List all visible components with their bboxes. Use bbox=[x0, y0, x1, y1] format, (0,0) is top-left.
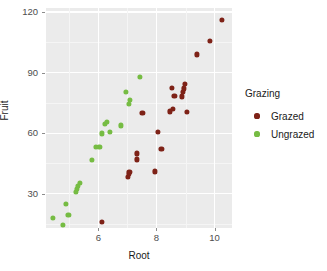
legend-label-ungrazed: Ungrazed bbox=[271, 129, 314, 140]
data-point-ungrazed bbox=[107, 130, 112, 135]
x-tick-mark bbox=[156, 228, 157, 231]
data-point-ungrazed bbox=[50, 216, 55, 221]
data-point-ungrazed bbox=[118, 123, 123, 128]
data-point-grazed bbox=[134, 157, 139, 162]
data-point-grazed bbox=[169, 85, 174, 90]
data-point-ungrazed bbox=[99, 131, 104, 136]
y-tick-mark bbox=[42, 194, 45, 195]
legend: Grazing Grazed Ungrazed bbox=[243, 88, 327, 143]
legend-swatch-grazed-icon bbox=[249, 108, 265, 124]
x-tick-mark bbox=[98, 228, 99, 231]
gridline-major-horizontal bbox=[46, 11, 232, 12]
data-point-ungrazed bbox=[77, 180, 82, 185]
gridline-minor-vertical bbox=[69, 8, 70, 228]
x-tick-label: 8 bbox=[154, 232, 159, 243]
data-point-grazed bbox=[194, 52, 199, 57]
gridline-major-horizontal bbox=[46, 133, 232, 134]
data-point-grazed bbox=[134, 151, 139, 156]
y-tick-mark bbox=[42, 12, 45, 13]
y-tick-label: 90 bbox=[8, 67, 38, 78]
gridline-major-vertical bbox=[98, 8, 99, 228]
data-point-grazed bbox=[153, 169, 158, 174]
data-point-grazed bbox=[159, 147, 164, 152]
x-axis-title: Root bbox=[46, 250, 232, 261]
data-point-grazed bbox=[184, 110, 189, 115]
plot-panel bbox=[46, 8, 232, 228]
gridline-minor-horizontal bbox=[46, 163, 232, 164]
legend-item-grazed[interactable]: Grazed bbox=[249, 107, 327, 125]
legend-title: Grazing bbox=[245, 88, 327, 99]
data-point-ungrazed bbox=[60, 222, 65, 227]
legend-swatch-ungrazed-icon bbox=[249, 126, 265, 142]
data-point-ungrazed bbox=[63, 201, 68, 206]
data-point-ungrazed bbox=[104, 119, 109, 124]
gridline-minor-horizontal bbox=[46, 224, 232, 225]
data-point-grazed bbox=[140, 110, 145, 115]
y-axis-title: Fruit bbox=[0, 101, 10, 121]
data-point-grazed bbox=[179, 94, 184, 99]
gridline-major-horizontal bbox=[46, 72, 232, 73]
legend-label-grazed: Grazed bbox=[271, 111, 304, 122]
y-tick-label: 120 bbox=[8, 6, 38, 17]
y-tick-mark bbox=[42, 133, 45, 134]
gridline-minor-vertical bbox=[186, 8, 187, 228]
gridline-major-vertical bbox=[214, 8, 215, 228]
x-tick-mark bbox=[215, 228, 216, 231]
gridline-major-vertical bbox=[156, 8, 157, 228]
y-tick-label: 30 bbox=[8, 188, 38, 199]
gridline-minor-vertical bbox=[127, 8, 128, 228]
y-tick-mark bbox=[42, 73, 45, 74]
data-point-ungrazed bbox=[97, 145, 102, 150]
x-tick-label: 10 bbox=[209, 232, 220, 243]
legend-item-ungrazed[interactable]: Ungrazed bbox=[249, 125, 327, 143]
data-point-grazed bbox=[207, 39, 212, 44]
gridline-minor-horizontal bbox=[46, 42, 232, 43]
data-point-ungrazed bbox=[127, 97, 132, 102]
x-tick-label: 6 bbox=[96, 232, 101, 243]
gridline-minor-horizontal bbox=[46, 103, 232, 104]
data-point-grazed bbox=[182, 81, 187, 86]
scatter-plot-figure: 306090120 6810 Fruit Root Grazing Grazed… bbox=[0, 0, 327, 271]
data-point-ungrazed bbox=[89, 157, 94, 162]
data-point-grazed bbox=[172, 94, 177, 99]
data-point-ungrazed bbox=[66, 212, 71, 217]
data-point-grazed bbox=[219, 18, 224, 23]
data-point-grazed bbox=[170, 106, 175, 111]
y-tick-label: 60 bbox=[8, 127, 38, 138]
data-point-ungrazed bbox=[138, 74, 143, 79]
